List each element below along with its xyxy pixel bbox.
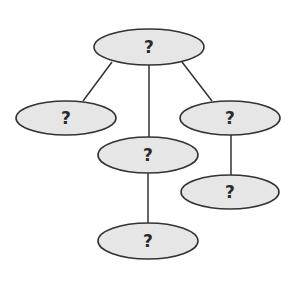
edge-root-left <box>83 62 112 101</box>
node-root-label: ? <box>144 37 154 57</box>
node-root: ? <box>94 29 204 65</box>
node-right-label: ? <box>225 108 235 128</box>
node-right: ? <box>180 101 280 135</box>
node-bottom: ? <box>98 223 198 259</box>
node-middle: ? <box>98 137 198 173</box>
tree-diagram: ? ? ? ? ? ? <box>0 0 304 298</box>
node-bottom-label: ? <box>143 231 153 251</box>
node-left-label: ? <box>61 108 71 128</box>
node-middle-label: ? <box>143 145 153 165</box>
node-right-child: ? <box>181 175 279 209</box>
node-left: ? <box>16 101 116 135</box>
edge-root-right <box>182 62 212 101</box>
node-right-child-label: ? <box>225 182 235 202</box>
